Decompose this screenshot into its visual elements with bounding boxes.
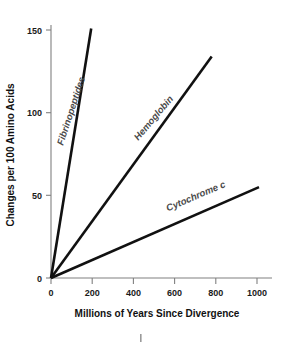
series-line-cytochrome-c bbox=[51, 187, 259, 278]
y-tick-label-50: 50 bbox=[32, 191, 42, 201]
y-axis-title: Changes per 100 Amino Acids bbox=[5, 83, 16, 227]
x-tick-label-600: 600 bbox=[167, 288, 182, 298]
molecular-clock-line-chart: 0 50 100 150 0 200 400 600 800 1000 bbox=[0, 0, 286, 344]
series-labels-group: Fibrinopeptides Hemoglobin Cytochrome c bbox=[54, 75, 227, 213]
series-label-fibrinopeptides: Fibrinopeptides bbox=[54, 75, 86, 146]
series-line-fibrinopeptides bbox=[51, 29, 91, 279]
y-tick-label-0: 0 bbox=[37, 274, 42, 284]
x-tick-label-200: 200 bbox=[85, 288, 100, 298]
data-series-group bbox=[51, 29, 259, 279]
bottom-artifact-mark bbox=[140, 334, 142, 342]
y-tick-labels: 0 50 100 150 bbox=[27, 26, 42, 284]
x-tick-label-400: 400 bbox=[126, 288, 141, 298]
y-tick-marks bbox=[46, 30, 51, 278]
y-tick-label-100: 100 bbox=[27, 108, 42, 118]
x-tick-label-0: 0 bbox=[48, 288, 53, 298]
axes-group bbox=[51, 25, 272, 278]
chart-figure: 0 50 100 150 0 200 400 600 800 1000 bbox=[0, 0, 286, 344]
x-tick-label-1000: 1000 bbox=[247, 288, 267, 298]
x-axis-title: Millions of Years Since Divergence bbox=[75, 308, 240, 319]
x-tick-marks bbox=[51, 278, 257, 284]
y-tick-label-150: 150 bbox=[27, 26, 42, 36]
x-tick-label-800: 800 bbox=[208, 288, 223, 298]
x-tick-labels: 0 200 400 600 800 1000 bbox=[48, 288, 267, 298]
series-label-cytochrome-c: Cytochrome c bbox=[164, 178, 227, 213]
